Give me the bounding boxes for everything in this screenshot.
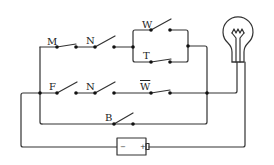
light-bulb-icon [223,17,253,62]
circuit-diagram: M N W T F N W B − + [0,0,274,165]
switch-n-top-label: N [86,36,95,46]
parallel-left-upper [133,30,151,47]
switch-t-label: T [143,51,150,61]
battery-minus-label: − [120,144,126,151]
switch-w-label: W [142,20,152,30]
switch-n-mid-blade [95,82,115,93]
switch-w-bar-label: W [140,82,150,92]
switch-m-label: M [47,37,57,47]
switch-f-label: F [49,82,56,92]
outer-loop-left [21,93,117,147]
switch-b-label: B [105,113,112,123]
switch-n-top-blade [95,36,115,47]
switch-m-blade [57,44,76,47]
battery-plus-label: + [140,144,146,151]
switch-b-blade [114,113,133,124]
outer-loop-right [149,62,245,147]
switch-wbar-blade [151,90,170,93]
left-bus-wire [40,47,42,124]
switch-w-blade [151,19,171,30]
mid-row-wire-to-lamp [170,62,237,93]
junction-dots [38,28,209,126]
circuit-wiring [0,0,274,165]
switch-f-blade [57,82,77,93]
parallel-right [170,30,188,62]
battery-terminal [146,144,149,150]
right-bus-wire [42,46,207,124]
switch-n-mid-label: N [86,82,95,92]
switch-t-blade [151,59,171,62]
